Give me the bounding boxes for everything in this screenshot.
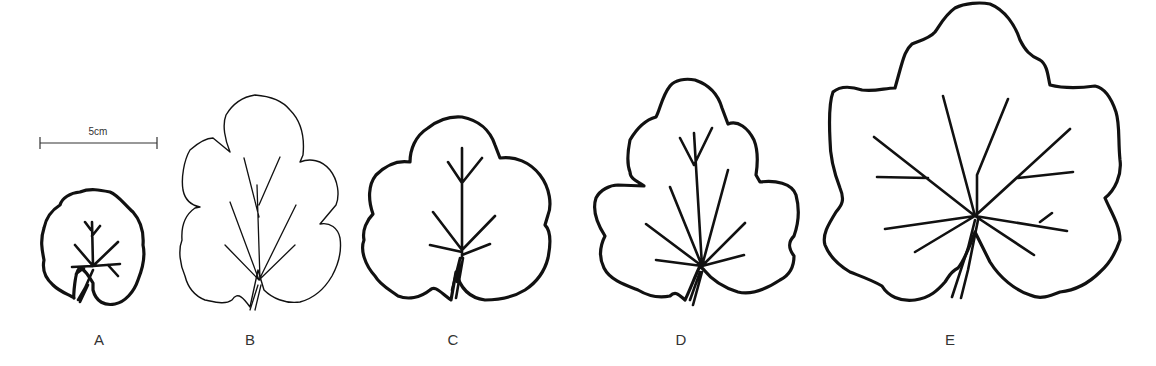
leaf-figure: 5cm A B C D E (0, 0, 1156, 366)
leaf-b-veins (225, 157, 296, 310)
leaf-a-veins (72, 222, 120, 302)
scale-bar: 5cm (40, 126, 157, 149)
leaf-d (595, 79, 798, 305)
leaf-e (824, 3, 1120, 300)
leaf-c-label: C (448, 331, 459, 348)
leaf-a (42, 190, 144, 305)
leaf-b (180, 95, 341, 310)
leaf-a-label: A (94, 331, 104, 348)
leaf-b-label: B (245, 331, 255, 348)
leaf-e-outline (824, 3, 1120, 300)
scale-bar-label: 5cm (89, 126, 108, 137)
leaf-e-veins (874, 96, 1073, 298)
leaf-d-label: D (676, 331, 687, 348)
leaf-c (363, 117, 550, 300)
leaf-e-label: E (945, 331, 955, 348)
leaf-c-veins (430, 148, 495, 298)
